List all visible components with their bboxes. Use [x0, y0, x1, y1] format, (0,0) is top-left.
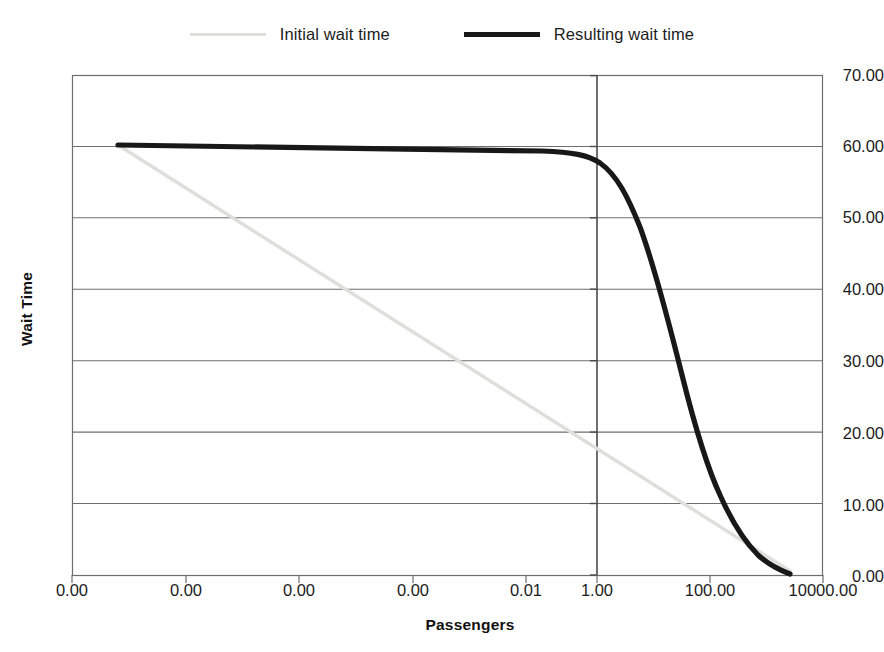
legend-line-initial-icon [190, 33, 266, 36]
x-axis-title-text: Passengers [369, 616, 514, 633]
x-tick-label-8: 10000.00 [789, 582, 858, 599]
legend-entry-initial: Initial wait time [190, 26, 390, 43]
plot-svg [72, 75, 823, 576]
x-tick-label-6: 1.00 [581, 582, 613, 599]
y-axis-title-text: Wait Time [18, 272, 36, 346]
x-tick-label-3: 0.00 [283, 582, 315, 599]
chart-figure: Initial wait time Resulting wait time [0, 0, 884, 652]
legend-line-resulting-icon [464, 32, 540, 37]
x-axis-title: Passengers [0, 616, 884, 634]
x-tick-label-4: 0.00 [397, 582, 429, 599]
x-tick-label-2: 0.00 [170, 582, 202, 599]
legend-label-initial: Initial wait time [280, 26, 390, 43]
y-axis-title: Wait Time [14, 0, 40, 652]
x-tick-label-7: 100.00 [685, 582, 735, 599]
chart-legend: Initial wait time Resulting wait time [0, 16, 884, 52]
x-tick-label-5: 0.01 [510, 582, 542, 599]
x-tick-label-1: 0.00 [56, 582, 88, 599]
x-axis-ticks [72, 575, 823, 583]
legend-label-resulting: Resulting wait time [554, 26, 694, 43]
plot-area [72, 75, 823, 576]
legend-entry-resulting: Resulting wait time [464, 26, 694, 43]
